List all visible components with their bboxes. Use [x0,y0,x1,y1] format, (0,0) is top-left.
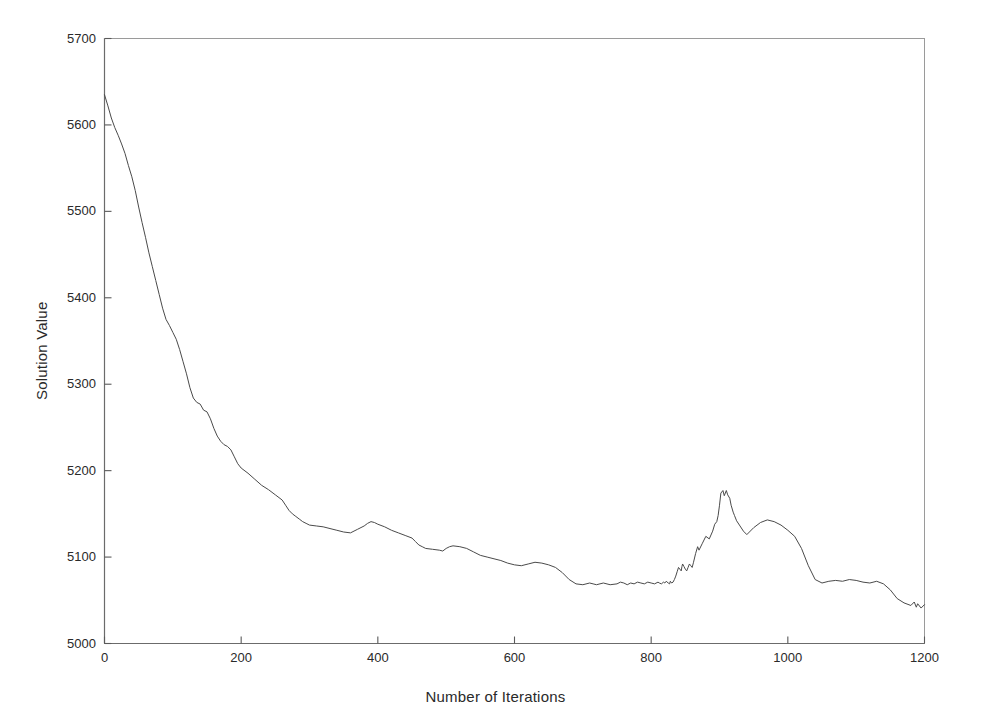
x-tick-label: 0 [75,650,135,665]
x-tick-label: 400 [348,650,408,665]
y-tick-label: 5500 [38,203,96,218]
y-tick-label: 5000 [38,636,96,651]
y-axis-ticks [105,39,112,644]
x-axis-title: Number of Iterations [0,688,991,705]
solution-value-line [105,95,925,608]
line-chart-plot [0,0,991,721]
y-tick-label: 5100 [38,549,96,564]
x-axis-ticks [105,637,925,644]
plot-frame [104,38,925,644]
x-tick-label: 200 [211,650,271,665]
y-axis-title: Solution Value [33,302,50,400]
figure-canvas: 50005100520053005400550056005700 0200400… [0,0,991,721]
x-tick-label: 800 [621,650,681,665]
y-tick-label: 5600 [38,117,96,132]
data-series-group [105,95,925,608]
y-tick-label: 5200 [38,463,96,478]
x-tick-label: 1200 [895,650,955,665]
y-tick-label: 5700 [38,31,96,46]
x-tick-label: 600 [485,650,545,665]
x-tick-label: 1000 [758,650,818,665]
